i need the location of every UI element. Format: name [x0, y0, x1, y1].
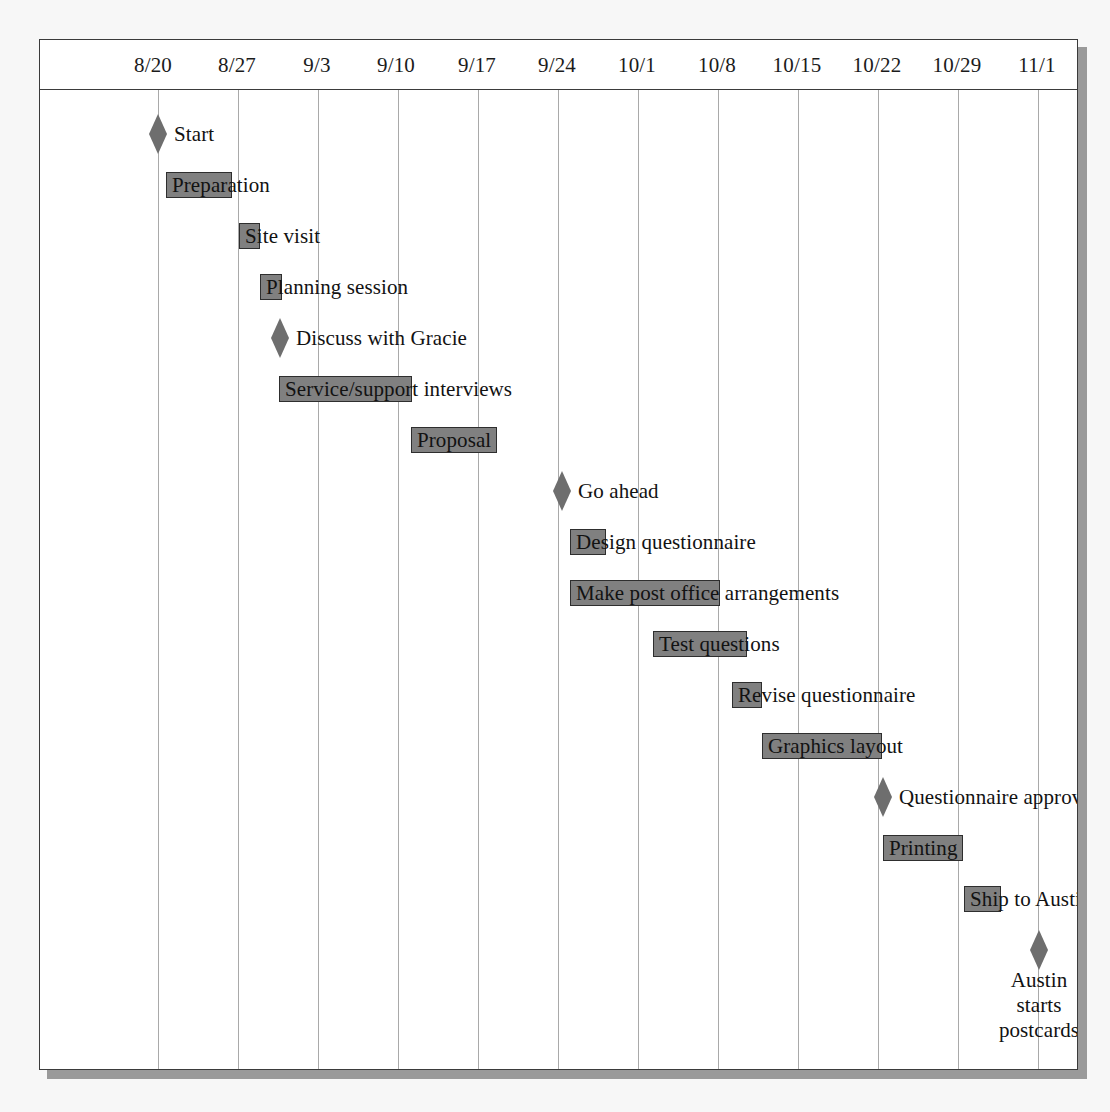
milestone-diamond-icon[interactable]: [552, 471, 572, 511]
gantt-task-row[interactable]: Test questions: [40, 618, 1077, 669]
milestone-label: Start: [174, 121, 214, 147]
axis-tick-label: 9/17: [458, 53, 496, 78]
task-label: Revise questionnaire: [738, 682, 916, 708]
axis-tick-label: 10/1: [618, 53, 656, 78]
task-label: Ship to Austin: [970, 886, 1077, 912]
gantt-task-row[interactable]: Start: [40, 108, 1077, 159]
axis-tick-label: 9/10: [377, 53, 415, 78]
gantt-task-row[interactable]: Questionnaire approval: [40, 771, 1077, 822]
gantt-task-row[interactable]: Discuss with Gracie: [40, 312, 1077, 363]
axis-tick-label: 11/1: [1018, 53, 1055, 78]
milestone-label: Questionnaire approval: [899, 784, 1077, 810]
gantt-chart: 8/208/279/39/109/179/2410/110/810/1510/2…: [39, 39, 1078, 1070]
gantt-task-row[interactable]: Proposal: [40, 414, 1077, 465]
gantt-task-row[interactable]: Revise questionnaire: [40, 669, 1077, 720]
gantt-plot-area: StartPreparationSite visitPlanning sessi…: [40, 90, 1077, 1069]
task-label: Planning session: [266, 274, 408, 300]
axis-tick-label: 10/15: [773, 53, 822, 78]
gantt-task-row[interactable]: Design questionnaire: [40, 516, 1077, 567]
gantt-task-row[interactable]: Go ahead: [40, 465, 1077, 516]
axis-tick-label: 8/27: [218, 53, 256, 78]
milestone-diamond-icon[interactable]: [1029, 930, 1049, 970]
gantt-task-row[interactable]: Planning session: [40, 261, 1077, 312]
task-label: Make post office arrangements: [576, 580, 839, 606]
task-label: Printing: [889, 835, 957, 861]
axis-tick-label: 9/3: [303, 53, 330, 78]
milestone-diamond-icon[interactable]: [873, 777, 893, 817]
axis-tick-label: 9/24: [538, 53, 576, 78]
task-label: Design questionnaire: [576, 529, 756, 555]
task-label: Service/support interviews: [285, 376, 512, 402]
task-label: Site visit: [245, 223, 320, 249]
task-label: Preparation: [172, 172, 270, 198]
gantt-task-row[interactable]: Ship to Austin: [40, 873, 1077, 924]
task-label: Test questions: [659, 631, 780, 657]
axis-tick-label: 8/20: [134, 53, 172, 78]
milestone-label: Austin starts postcards: [999, 968, 1077, 1043]
axis-tick-label: 10/22: [853, 53, 902, 78]
gantt-task-row[interactable]: Austin starts postcards: [40, 924, 1077, 975]
task-label: Graphics layout: [768, 733, 903, 759]
gantt-task-row[interactable]: Preparation: [40, 159, 1077, 210]
axis-tick-label: 10/29: [933, 53, 982, 78]
milestone-label: Discuss with Gracie: [296, 325, 467, 351]
gantt-task-row[interactable]: Printing: [40, 822, 1077, 873]
axis-tick-label: 10/8: [698, 53, 736, 78]
gantt-task-row[interactable]: Site visit: [40, 210, 1077, 261]
milestone-label: Go ahead: [578, 478, 659, 504]
gantt-task-row[interactable]: Make post office arrangements: [40, 567, 1077, 618]
gantt-task-row[interactable]: Service/support interviews: [40, 363, 1077, 414]
milestone-diamond-icon[interactable]: [148, 114, 168, 154]
task-label: Proposal: [417, 427, 491, 453]
gantt-task-row[interactable]: Graphics layout: [40, 720, 1077, 771]
milestone-diamond-icon[interactable]: [270, 318, 290, 358]
timeline-header: 8/208/279/39/109/179/2410/110/810/1510/2…: [40, 40, 1077, 90]
